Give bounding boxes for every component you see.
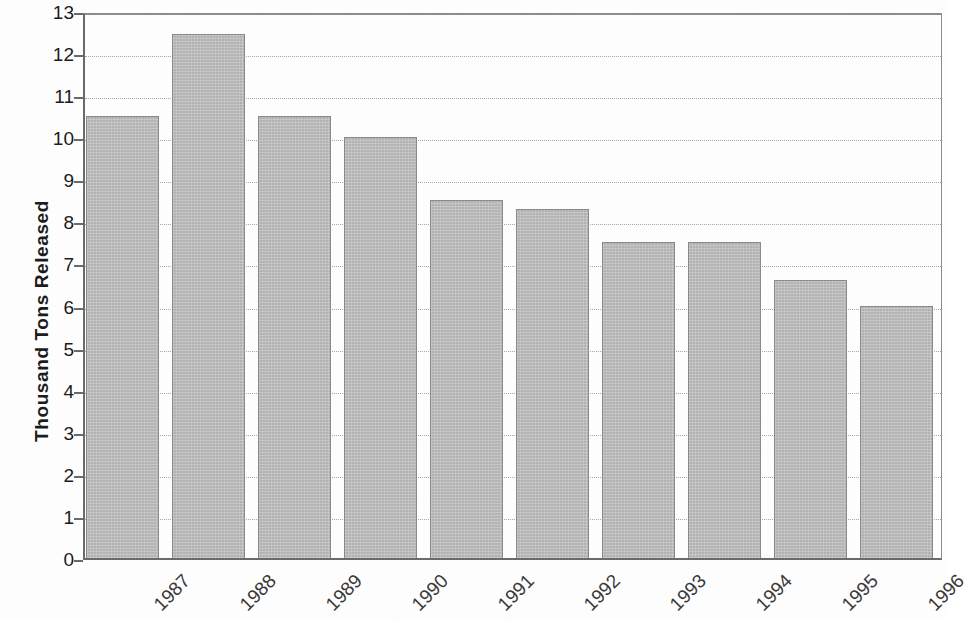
y-axis-tick-mark: [74, 560, 83, 562]
y-axis-tick-label: 12: [32, 44, 74, 66]
y-axis-tick-label: 6: [32, 297, 74, 319]
x-axis-tick-label: 1996: [923, 570, 968, 615]
y-axis-tick-mark: [74, 223, 83, 225]
y-axis-tick-label: 4: [32, 381, 74, 403]
gridline: [85, 14, 941, 15]
y-axis-tick-mark: [74, 13, 83, 15]
y-axis-tick-mark: [74, 97, 83, 99]
y-axis-tick-mark: [74, 434, 83, 436]
bar: [516, 209, 589, 558]
x-axis-tick-label: 1995: [837, 570, 882, 615]
y-axis-tick-mark: [74, 518, 83, 520]
y-axis-tick-label: 11: [32, 86, 74, 108]
bar: [860, 306, 933, 558]
y-axis-tick-label: 9: [32, 170, 74, 192]
y-axis-tick-mark: [74, 350, 83, 352]
y-axis-tick-mark: [74, 139, 83, 141]
bar: [172, 34, 245, 558]
bar: [258, 116, 331, 558]
x-axis-tick-label: 1991: [493, 570, 538, 615]
y-axis-tick-label: 13: [32, 2, 74, 24]
bar: [430, 200, 503, 558]
y-axis-tick-mark: [74, 308, 83, 310]
x-axis-tick-label: 1987: [149, 570, 194, 615]
bar: [602, 242, 675, 558]
bar: [344, 137, 417, 558]
x-axis-tick-label: 1988: [235, 570, 280, 615]
bar: [688, 242, 761, 558]
bar: [774, 280, 847, 558]
y-axis-tick-mark: [74, 392, 83, 394]
x-axis-tick-label: 1990: [407, 570, 452, 615]
y-axis-tick-label: 3: [32, 423, 74, 445]
x-axis-tick-label: 1994: [751, 570, 796, 615]
y-axis-tick-label: 1: [32, 507, 74, 529]
y-axis-tick-mark: [74, 265, 83, 267]
bar: [86, 116, 159, 558]
x-axis-tick-label: 1992: [579, 570, 624, 615]
y-axis-tick-mark: [74, 181, 83, 183]
plot-area: [83, 13, 942, 560]
y-axis-tick-mark: [74, 476, 83, 478]
y-axis-tick-label: 0: [32, 549, 74, 571]
y-axis-tick-mark: [74, 55, 83, 57]
y-axis-tick-label: 10: [32, 128, 74, 150]
y-axis-tick-labels: 012345678910111213: [24, 13, 74, 560]
x-axis-tick-label: 1993: [665, 570, 710, 615]
y-axis-tick-label: 2: [32, 465, 74, 487]
y-axis-tick-label: 5: [32, 339, 74, 361]
y-axis-tick-label: 7: [32, 254, 74, 276]
y-axis-tick-label: 8: [32, 212, 74, 234]
x-axis-tick-label: 1989: [321, 570, 366, 615]
